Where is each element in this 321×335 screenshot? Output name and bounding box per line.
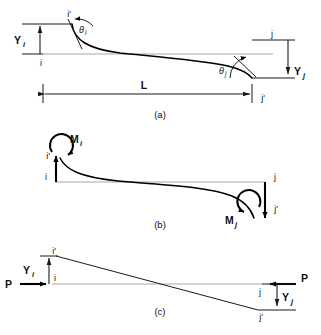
panel-c-yi-subscript: i (32, 270, 35, 279)
panel-a-node-j-label: j (270, 29, 273, 39)
panel-a-tangent-j (234, 56, 256, 77)
panel-c-yj-subscript: j (290, 297, 294, 306)
panel-a-theta-i-label: θ (79, 25, 84, 35)
panel-a-yi-label: Y (14, 34, 21, 46)
panel-a-node-j-prime-label: j' (260, 93, 265, 103)
panel-a-theta-j-subscript: j (224, 70, 227, 78)
panel-a-node-i-prime-label: i' (67, 9, 71, 19)
panel-b-caption: (b) (154, 219, 166, 230)
figure-container: i' i j j' Y i Y j θ i θ j L (a) (0, 0, 321, 335)
panel-c-node-i-label: i (54, 273, 56, 283)
panel-c-node-j-label: j (258, 287, 261, 297)
panel-b-node-j-label: j (273, 172, 276, 182)
panel-b-moment-j-label: M (225, 214, 234, 226)
panel-c-force-left-label: P (5, 278, 12, 290)
panel-c-yi-label: Y (23, 264, 30, 276)
panel-a-yi-subscript: i (23, 40, 26, 49)
panel-b-moment-j-subscript: j (234, 220, 238, 229)
panel-c: i' i j j' P P Y i Y j (c) (5, 246, 308, 322)
panel-c-node-j-prime-label: j' (258, 312, 263, 322)
panel-c-caption: (c) (154, 306, 165, 317)
panel-a-theta-i-arc (75, 19, 93, 26)
panel-a: i' i j j' Y i Y j θ i θ j L (a) (14, 9, 306, 120)
panel-c-force-right-label: P (301, 272, 308, 284)
panel-b-moment-i-subscript: i (80, 139, 83, 148)
panel-b-node-i-label: i (45, 172, 47, 182)
beam-end-conditions-figure: i' i j j' Y i Y j θ i θ j L (a) (0, 0, 321, 335)
panel-a-theta-j-label: θ (219, 66, 224, 76)
panel-c-displaced-chord (56, 256, 258, 310)
panel-a-yj-label: Y (294, 65, 301, 77)
panel-a-theta-i-subscript: i (85, 29, 87, 36)
panel-a-node-i-label: i (40, 58, 42, 68)
panel-b-node-i-prime-label: i' (46, 151, 50, 161)
panel-b-deflected-curve (60, 158, 254, 218)
panel-c-yj-label: Y (282, 291, 289, 303)
panel-a-caption: (a) (154, 109, 166, 120)
panel-a-yj-subscript: j (302, 71, 306, 80)
panel-a-length-label: L (141, 79, 148, 91)
panel-b: i' i j j' M i M j (b) (45, 133, 278, 230)
panel-b-node-j-prime-label: j' (273, 204, 278, 214)
panel-c-node-i-prime-label: i' (52, 246, 56, 256)
panel-b-moment-i-label: M (70, 133, 79, 145)
